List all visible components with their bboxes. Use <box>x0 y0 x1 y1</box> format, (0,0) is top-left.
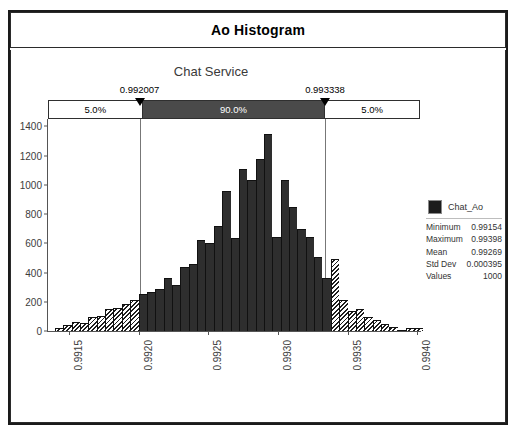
histogram-bar <box>406 328 414 331</box>
histogram-bar <box>414 328 422 331</box>
histogram-bar <box>339 300 347 331</box>
series-color-swatch-icon <box>428 200 442 214</box>
histogram-bar <box>172 285 180 331</box>
histogram-bar <box>306 237 314 331</box>
stat-value: 0.99398 <box>471 233 502 245</box>
histogram-bar <box>113 308 121 331</box>
stat-value: 0.000395 <box>467 258 502 270</box>
histogram-bar <box>222 191 230 331</box>
histogram-bar <box>289 207 297 331</box>
x-tick-mark-5 <box>417 331 418 335</box>
histogram-bar <box>256 159 264 331</box>
stat-name: Maximum <box>426 233 467 245</box>
stat-name: Std Dev <box>426 258 460 270</box>
histogram-bar <box>197 240 205 331</box>
y-tick-label: 600 <box>25 238 48 249</box>
y-tick-label: 800 <box>25 209 48 220</box>
stat-value: 1000 <box>483 270 502 282</box>
stat-row: Mean0.99269 <box>426 246 502 258</box>
percentile-band-2: 5.0% <box>325 101 419 118</box>
stat-name: Values <box>426 270 455 282</box>
stat-value: 0.99269 <box>471 246 502 258</box>
histogram-bar <box>373 320 381 331</box>
histogram-bar <box>281 180 289 331</box>
histogram-bar <box>130 300 138 331</box>
histogram-bar <box>105 309 113 331</box>
x-tick-mark-3 <box>278 331 279 335</box>
histogram-bar <box>231 238 239 331</box>
histogram-bar <box>80 323 88 331</box>
histogram-plot-area <box>48 119 420 331</box>
x-tick-mark-4 <box>348 331 349 335</box>
histogram-bar <box>239 169 247 331</box>
histogram-bar <box>381 324 389 331</box>
histogram-bar <box>205 243 213 331</box>
histogram-bar <box>331 259 339 331</box>
histogram-bar <box>264 134 272 331</box>
stat-row: Maximum0.99398 <box>426 233 502 245</box>
x-axis-line <box>48 331 421 332</box>
stat-row: Values1000 <box>426 270 502 282</box>
histogram-bar <box>88 317 96 331</box>
percentile-band-1: 90.0% <box>142 101 326 118</box>
percentile-value-label-0: 0.992007 <box>120 84 160 95</box>
x-tick-mark-0 <box>69 331 70 335</box>
x-tick-label-5: 0.9940 <box>421 340 432 371</box>
stat-name: Mean <box>426 246 451 258</box>
histogram-bar <box>97 316 105 331</box>
x-tick-mark-1 <box>139 331 140 335</box>
y-tick-label: 200 <box>25 296 48 307</box>
x-tick-label-0: 0.9915 <box>73 340 84 371</box>
x-tick-label-2: 0.9925 <box>212 340 223 371</box>
histogram-bar <box>214 226 222 331</box>
histogram-bar <box>63 325 71 331</box>
percentile-marker-handle-1[interactable] <box>320 98 330 106</box>
histogram-bar <box>348 311 356 331</box>
histogram-bar <box>139 294 147 331</box>
percentile-marker-handle-0[interactable] <box>135 98 145 106</box>
stat-row: Std Dev0.000395 <box>426 258 502 270</box>
percentile-band-0: 5.0% <box>49 101 142 118</box>
stat-row: Minimum0.99154 <box>426 221 502 233</box>
legend-stats-box: Chat_Ao Minimum0.99154Maximum0.99398Mean… <box>424 198 502 283</box>
histogram-bar <box>297 229 305 331</box>
x-tick-mark-2 <box>208 331 209 335</box>
x-tick-label-1: 0.9920 <box>143 340 154 371</box>
legend-entry[interactable]: Chat_Ao <box>424 198 502 218</box>
y-tick-label: 400 <box>25 267 48 278</box>
histogram-bar <box>247 180 255 331</box>
histogram-bar <box>356 309 364 331</box>
histogram-bar <box>180 267 188 331</box>
legend-series-label: Chat_Ao <box>448 202 483 212</box>
statistics-table: Minimum0.99154Maximum0.99398Mean0.99269S… <box>426 218 502 283</box>
report-title-bar: Ao Histogram <box>10 12 506 48</box>
histogram-bar <box>189 264 197 331</box>
histogram-report: Ao Histogram Chat Service 5.0%90.0%5.0% … <box>0 0 520 437</box>
y-tick-label: 1000 <box>20 179 48 190</box>
histogram-bar <box>122 304 130 331</box>
stat-name: Minimum <box>426 221 464 233</box>
y-tick-label: 0 <box>36 326 48 337</box>
histogram-bar <box>314 257 322 331</box>
histogram-bar <box>72 322 80 331</box>
histogram-bar <box>155 289 163 331</box>
page-title: Ao Histogram <box>211 22 305 38</box>
histogram-bar <box>55 328 63 331</box>
histogram-bar <box>147 292 155 331</box>
histogram-bar <box>164 278 172 331</box>
percentile-value-label-1: 0.993338 <box>305 84 345 95</box>
histogram-bar <box>364 317 372 331</box>
histogram-bar <box>322 278 330 331</box>
histogram-bar <box>272 237 280 331</box>
y-tick-label: 1400 <box>20 121 48 132</box>
x-tick-label-3: 0.9930 <box>282 340 293 371</box>
x-tick-label-4: 0.9935 <box>352 340 363 371</box>
stat-value: 0.99154 <box>471 221 502 233</box>
percentile-band-bar[interactable]: 5.0%90.0%5.0% <box>48 100 420 119</box>
histogram-bar <box>398 330 406 331</box>
chart-subtitle: Chat Service <box>11 64 411 79</box>
histogram-bar <box>389 327 397 331</box>
y-tick-label: 1200 <box>20 150 48 161</box>
